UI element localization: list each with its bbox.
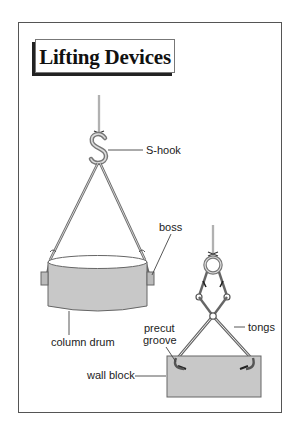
column-drum-rig: [41, 95, 154, 311]
wall-block-rig: [167, 225, 261, 397]
label-s-hook: S-hook: [146, 144, 181, 156]
column-drum: [48, 262, 147, 311]
lifting-devices-illustration: S-hook boss column drum precut groove to…: [0, 0, 295, 430]
label-column-drum: column drum: [51, 336, 115, 348]
tongs-links: [196, 272, 230, 316]
label-groove: groove: [143, 334, 177, 346]
label-boss: boss: [159, 221, 183, 233]
wall-block: [167, 356, 261, 397]
label-wall-block: wall block: [86, 369, 135, 381]
label-precut: precut: [144, 322, 175, 334]
pivot-icon: [210, 313, 216, 319]
label-tongs: tongs: [248, 321, 275, 333]
boss-left: [41, 272, 48, 285]
drum-top: [48, 256, 147, 269]
